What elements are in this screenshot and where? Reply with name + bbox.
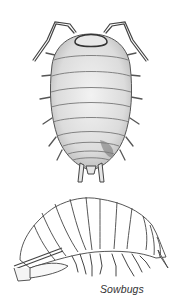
figure-caption: Sowbugs [100, 283, 144, 295]
sowbug-figure: Sowbugs [0, 0, 182, 307]
sowbug-lateral-illustration [0, 0, 182, 307]
